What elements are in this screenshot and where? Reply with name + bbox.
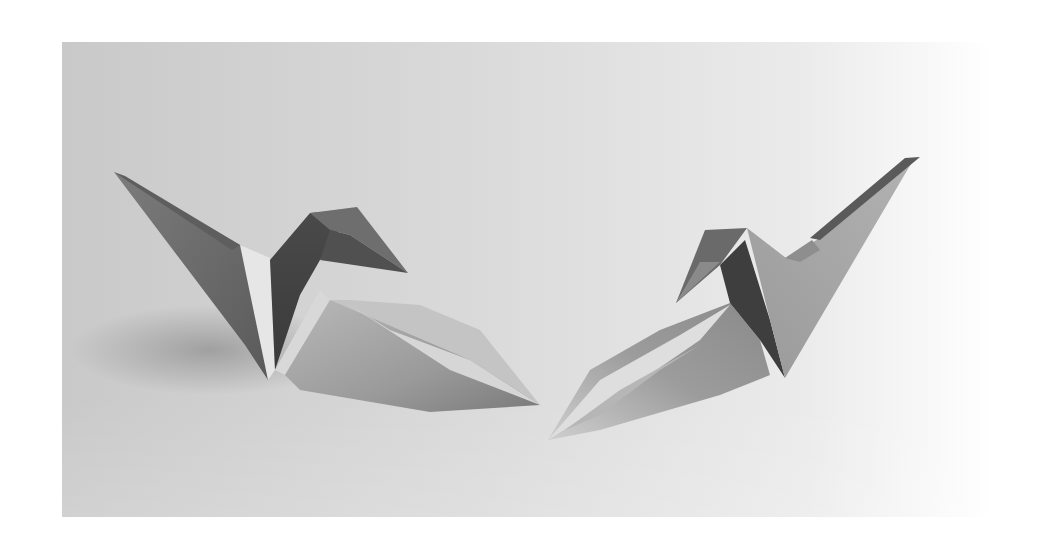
origami-crane-photo (62, 42, 992, 517)
